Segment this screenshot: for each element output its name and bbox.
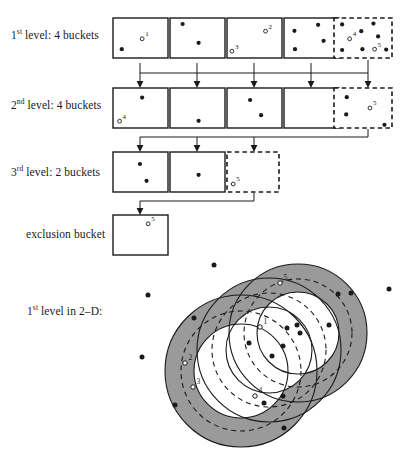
open-point (373, 47, 377, 51)
filled-point (285, 326, 290, 331)
bucket-outline (227, 152, 279, 192)
open-point-label: 5 (236, 175, 240, 183)
filled-point (293, 47, 297, 51)
filled-point (270, 354, 275, 359)
filled-point (295, 323, 300, 328)
open-point-label: 4 (258, 386, 262, 395)
bucket-outline (334, 88, 392, 128)
bucket-row-exclusion: 5 (113, 215, 168, 255)
filled-point (146, 293, 151, 298)
open-point (348, 37, 352, 41)
arrow-to-exclusion-bucket (140, 193, 254, 213)
filled-point (262, 401, 267, 406)
bucket-level-2-2 (170, 88, 225, 128)
bucket-level-1-3: 32 (227, 18, 282, 58)
open-point (183, 361, 187, 365)
open-point-label: 5 (373, 99, 377, 107)
filled-point (140, 355, 145, 360)
filled-point (349, 291, 354, 296)
filled-point (327, 323, 332, 328)
label-level-1: 1st level: 4 buckets (11, 29, 99, 41)
filled-point (140, 96, 144, 100)
bucket-outline (227, 18, 282, 58)
bucket-level-2-1: 4 (113, 88, 168, 128)
open-point-label: 1 (145, 30, 149, 38)
filled-point (340, 22, 344, 26)
open-point-label: 1 (263, 317, 267, 326)
filled-point (336, 292, 341, 297)
two-d-diagram: 12345 (140, 263, 392, 448)
open-point-label: 2 (269, 23, 273, 31)
filled-point (298, 331, 303, 336)
open-point (368, 106, 372, 110)
filled-point (282, 426, 287, 431)
filled-point (387, 287, 392, 292)
filled-point (281, 344, 286, 349)
bucket-exclusion-1: 5 (113, 215, 168, 255)
filled-point (138, 162, 142, 166)
filled-point (376, 34, 380, 38)
filled-point (197, 119, 201, 123)
open-point (230, 49, 234, 53)
bucket-row-level-2: 45 (113, 88, 392, 128)
open-point-label: 2 (188, 353, 192, 362)
open-point-label: 4 (353, 30, 357, 38)
open-point-label: 5 (378, 41, 382, 49)
bucket-outline (284, 18, 339, 58)
filled-point (384, 48, 388, 52)
annuli-shaded-region (165, 264, 367, 447)
filled-point (371, 22, 375, 26)
filled-point (259, 113, 263, 117)
open-point (253, 394, 257, 398)
filled-point (197, 41, 201, 45)
filled-point (173, 403, 178, 408)
filled-point (340, 48, 344, 52)
filled-point (248, 98, 252, 102)
filled-point (382, 123, 386, 127)
open-point-label: 4 (123, 113, 127, 121)
bucket-outline (170, 18, 225, 58)
open-point (118, 119, 122, 123)
filled-point (345, 95, 349, 99)
bucket-level-2-4 (284, 88, 339, 128)
filled-point (181, 22, 185, 26)
open-point (231, 182, 235, 186)
bucket-level-3-3: 5 (227, 152, 279, 192)
bucket-outline (227, 88, 282, 128)
bucket-row-level-3: 5 (113, 152, 279, 192)
bucket-outline (113, 152, 168, 192)
bucket-level-2-3 (227, 88, 282, 128)
bucket-level-1-5: 45 (334, 18, 392, 58)
label-level-1-in-2d: 1st level in 2–D: (27, 305, 102, 317)
filled-point (322, 39, 326, 43)
arrowheads-level2 (137, 81, 372, 88)
bucket-level-3-2 (170, 152, 225, 192)
filled-point (281, 394, 286, 399)
open-point-label: 5 (151, 215, 155, 223)
bucket-outline (170, 152, 225, 192)
label-exclusion-bucket: exclusion bucket (26, 228, 105, 240)
filled-point (360, 47, 364, 51)
bucket-level-1-2 (170, 18, 225, 58)
open-point (264, 29, 268, 33)
filled-point (247, 341, 252, 346)
bucket-level-2-5: 5 (334, 88, 392, 128)
label-level-2: 2nd level: 4 buckets (11, 99, 101, 111)
open-point-label: 3 (235, 43, 239, 51)
bucket-row-level-1: 13245 (113, 18, 392, 58)
filled-point (197, 173, 201, 177)
bucket-outline (284, 88, 339, 128)
bucket-level-1-1: 1 (113, 18, 168, 58)
open-point (146, 222, 150, 226)
filled-point (192, 316, 197, 321)
arrowhead-exclusion (137, 208, 144, 215)
filled-point (359, 29, 363, 33)
open-point (140, 37, 144, 41)
bucket-level-1-4 (284, 18, 339, 58)
label-level-3: 3rd level: 2 buckets (11, 166, 100, 178)
open-point-label: 5 (283, 273, 287, 282)
open-point (258, 325, 262, 329)
open-point-label: 3 (196, 377, 200, 386)
bucket-level-3-1 (113, 152, 168, 192)
arrowheads-level3 (137, 145, 258, 152)
